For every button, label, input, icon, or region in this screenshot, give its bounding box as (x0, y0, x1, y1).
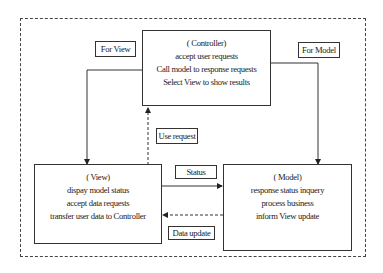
view-line: transfer user data to Controller (35, 210, 161, 223)
model-line: process business (224, 197, 351, 210)
model-node: ( Model) response status inquery process… (223, 164, 352, 251)
model-line: inform View update (224, 210, 351, 223)
controller-line: Call model to response requests (143, 63, 270, 76)
view-title: ( View) (35, 171, 161, 184)
view-line: dispay model status (35, 184, 161, 197)
controller-line: accept user requests (143, 50, 270, 63)
for-view-label: For View (95, 41, 136, 57)
view-line: accept data requests (35, 197, 161, 210)
data-update-label: Data update (168, 226, 215, 240)
use-request-label: Use request (156, 128, 198, 144)
model-title: ( Model) (224, 171, 351, 184)
for-model-label: For Model (298, 42, 340, 58)
controller-line: Select View to show results (143, 76, 270, 89)
view-node: ( View) dispay model status accept data … (34, 164, 162, 244)
controller-title: ( Controller) (143, 37, 270, 50)
controller-node: ( Controller) accept user requests Call … (142, 30, 271, 106)
model-line: response status inquery (224, 184, 351, 197)
status-label: Status (175, 165, 217, 179)
